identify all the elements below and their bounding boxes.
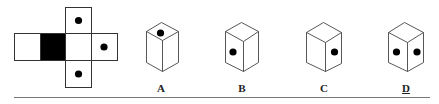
puzzle-figure: [0, 0, 439, 104]
cube-option-b[interactable]: [226, 23, 259, 72]
option-label-b: B: [232, 82, 252, 94]
divider-line: [14, 97, 430, 98]
option-label-d: D: [396, 82, 416, 94]
cube-net: [15, 8, 118, 88]
cube-outline: [307, 23, 342, 72]
dot-icon: [75, 70, 82, 77]
dot-icon: [157, 29, 164, 36]
cube-option-d[interactable]: [389, 23, 424, 72]
net-square-center: [66, 34, 92, 61]
cube-outline: [389, 23, 424, 72]
cube-option-a[interactable]: [147, 23, 179, 72]
dot-icon: [331, 48, 338, 55]
option-label-a: A: [151, 82, 171, 94]
dot-icon: [393, 48, 400, 55]
dot-icon: [229, 48, 236, 55]
dot-icon: [100, 43, 107, 50]
dot-icon: [413, 48, 420, 55]
cube-option-c[interactable]: [307, 23, 342, 72]
option-label-c: C: [314, 82, 334, 94]
net-square-shaded: [41, 34, 66, 61]
dot-icon: [75, 17, 82, 24]
cube-outline: [226, 23, 259, 72]
net-square-left-end: [15, 34, 41, 61]
